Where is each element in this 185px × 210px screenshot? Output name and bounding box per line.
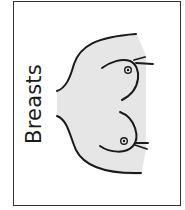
card-label: Breasts xyxy=(22,64,46,144)
upper-nipple-center xyxy=(127,69,129,71)
lower-nipple-center xyxy=(123,140,125,142)
upper-breast-line-b xyxy=(136,63,153,64)
torso-fill xyxy=(57,34,146,175)
